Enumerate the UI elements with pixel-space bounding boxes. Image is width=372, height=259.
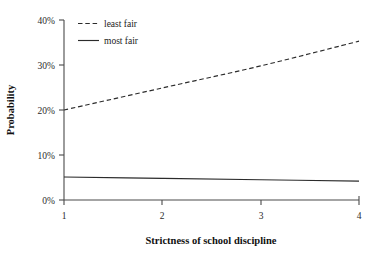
x-tick-label-3: 3 — [259, 211, 264, 221]
y-axis-title: Probability — [5, 84, 16, 135]
chart-background — [0, 0, 372, 259]
chart-figure: 40% 30% 20% 10% 0% 1 2 3 4 least fair mo… — [0, 0, 372, 259]
y-tick-label-40: 40% — [38, 16, 56, 26]
y-tick-label-10: 10% — [38, 151, 56, 161]
x-tick-label-1: 1 — [62, 211, 67, 221]
x-axis-title: Strictness of school discipline — [146, 235, 277, 246]
x-tick-label-2: 2 — [160, 211, 165, 221]
legend-label-least-fair: least fair — [104, 19, 138, 29]
y-tick-label-0: 0% — [42, 196, 55, 206]
chart-canvas: 40% 30% 20% 10% 0% 1 2 3 4 least fair mo… — [0, 0, 372, 259]
y-tick-label-20: 20% — [38, 106, 56, 116]
legend-label-most-fair: most fair — [104, 36, 139, 46]
x-tick-label-4: 4 — [357, 211, 362, 221]
y-tick-label-30: 30% — [38, 61, 56, 71]
